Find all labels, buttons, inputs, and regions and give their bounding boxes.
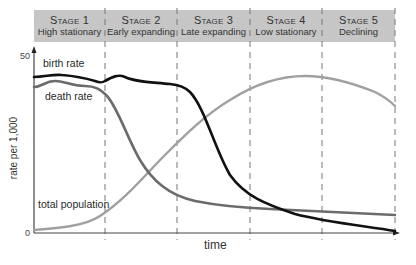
x-axis-label: time: [204, 238, 227, 252]
birth-rate-label: birth rate: [43, 57, 84, 69]
stage-dividers: [105, 8, 395, 240]
y-tick-zero: 0: [25, 228, 30, 238]
y-tick-max: 50: [20, 51, 30, 61]
y-axis-arrow-icon: [32, 46, 37, 53]
y-axis-label: rate per 1,000: [8, 103, 19, 193]
total-population-label: total population: [38, 198, 109, 210]
demographic-transition-chart: Stage 1 High stationary Stage 2 Early ex…: [0, 0, 416, 265]
plot-area: [0, 0, 416, 265]
death-rate-label: death rate: [45, 90, 92, 102]
